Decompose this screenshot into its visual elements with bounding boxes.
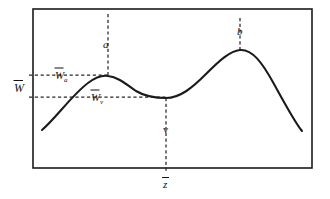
plot-frame bbox=[33, 9, 312, 168]
axis-label-z: z bbox=[162, 178, 169, 190]
figure-container: W W a W v a b v z bbox=[0, 0, 330, 199]
point-label-b: b bbox=[237, 25, 243, 37]
axis-label-w-text: W bbox=[14, 81, 25, 95]
label-w-a: W a bbox=[55, 68, 69, 84]
axis-label-w: W bbox=[14, 81, 26, 95]
wage-curve-diagram: W W a W v a b v z bbox=[0, 0, 330, 199]
point-label-a: a bbox=[103, 38, 109, 50]
axis-label-z-text: z bbox=[162, 178, 168, 190]
label-w-a-subscript: a bbox=[64, 76, 68, 84]
wage-curve-path bbox=[42, 50, 302, 131]
label-w-v: W v bbox=[91, 90, 105, 106]
label-w-v-subscript: v bbox=[100, 98, 104, 106]
point-label-v: v bbox=[163, 124, 169, 135]
